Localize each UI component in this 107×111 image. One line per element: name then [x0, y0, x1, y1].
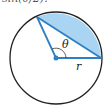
segment-diagram: θ r [0, 0, 107, 111]
radius-label: r [76, 60, 82, 73]
center-point [54, 56, 59, 61]
theta-label: θ [62, 38, 69, 51]
